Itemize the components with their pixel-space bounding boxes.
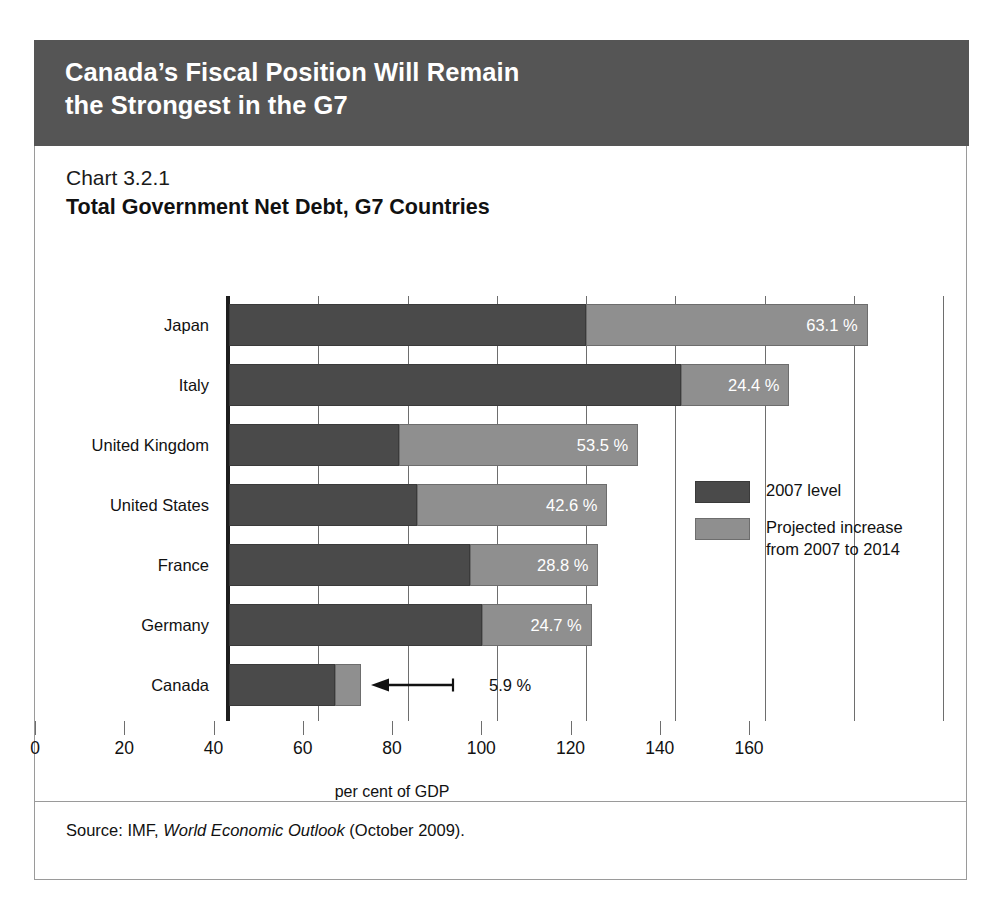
bar-row: Japan63.1 % [229,304,868,346]
bar-segment-2007-level [229,544,470,586]
x-axis-tick [214,721,215,735]
legend-swatch-2007-level [695,481,750,503]
x-axis-tick-label: 140 [645,738,674,759]
banner-title: Canada’s Fiscal Position Will Remain the… [65,56,519,122]
source-prefix: Source: IMF, [66,821,163,839]
bar-segment-projected-increase: 42.6 % [417,484,607,526]
bar-segment-projected-increase: 24.7 % [482,604,592,646]
chart-number: Chart 3.2.1 [66,164,490,191]
source-note: Source: IMF, World Economic Outlook (Oct… [66,821,465,840]
bar-row: United Kingdom53.5 % [229,424,638,466]
x-axis-tick [571,721,572,735]
legend-label-projected-increase: Projected increase from 2007 to 2014 [766,516,903,560]
bar-row: Italy24.4 % [229,364,789,406]
bar-value-label: 28.8 % [537,556,588,575]
x-axis-tick-label: 0 [30,738,40,759]
bar-segment-2007-level [229,484,417,526]
bar-segment-projected-increase [335,664,361,706]
bar-row: United States42.6 % [229,484,607,526]
x-axis-tick [481,721,482,735]
callout-arrow-icon [371,678,463,692]
source-publication: World Economic Outlook [163,821,345,839]
chart-title: Total Government Net Debt, G7 Countries [66,193,490,221]
x-axis-tick-labels: 020406080100120140160 [35,738,749,764]
legend-label-2007-level: 2007 level [766,479,841,501]
x-axis-tick-label: 80 [382,738,401,759]
x-axis-tick [303,721,304,735]
bar-value-label: 42.6 % [546,496,597,515]
category-label: Italy [179,376,209,395]
chart-figure: Canada’s Fiscal Position Will Remain the… [34,40,967,880]
bar-value-label: 63.1 % [806,316,857,335]
category-label: Canada [151,676,209,695]
category-label: United States [110,496,209,515]
legend-item-2007-level: 2007 level [695,479,945,503]
x-axis-tick [35,721,36,735]
category-label: United Kingdom [92,436,209,455]
bar-segment-2007-level [229,364,681,406]
source-divider [35,801,966,802]
x-axis-tick-label: 120 [556,738,585,759]
bar-segment-2007-level [229,424,399,466]
x-axis-tick [749,721,750,735]
category-label: France [158,556,209,575]
bar-segment-2007-level [229,604,482,646]
legend-item-projected-increase: Projected increase from 2007 to 2014 [695,516,945,560]
x-axis-ticks [35,721,749,735]
category-label: Japan [164,316,209,335]
bar-segment-projected-increase: 28.8 % [470,544,599,586]
x-axis-tick [124,721,125,735]
bar-segment-projected-increase: 24.4 % [681,364,790,406]
callout-value-label: 5.9 % [489,676,531,695]
bar-value-label: 24.4 % [728,376,779,395]
bar-segment-2007-level [229,664,335,706]
legend-swatch-projected-increase [695,518,750,540]
chart-header: Chart 3.2.1 Total Government Net Debt, G… [66,164,490,221]
bar-row: France28.8 % [229,544,598,586]
bar-value-label: 24.7 % [530,616,581,635]
value-callout: 5.9 % [371,675,531,695]
bar-row: Germany24.7 % [229,604,592,646]
x-axis-tick-label: 20 [115,738,134,759]
source-suffix: (October 2009). [345,821,465,839]
x-axis-tick-label: 100 [467,738,496,759]
x-axis-tick-label: 40 [204,738,223,759]
x-axis-tick-label: 60 [293,738,312,759]
category-label: Germany [141,616,209,635]
x-axis-label: per cent of GDP [35,783,749,801]
x-axis-tick-label: 160 [734,738,763,759]
bar-value-label: 53.5 % [577,436,628,455]
legend: 2007 level Projected increase from 2007 … [695,479,945,573]
x-axis-tick [660,721,661,735]
banner: Canada’s Fiscal Position Will Remain the… [34,40,969,146]
gridline [675,296,676,721]
x-axis-tick [392,721,393,735]
bar-segment-projected-increase: 63.1 % [586,304,868,346]
bar-row: Canada5.9 % [229,664,361,706]
bar-segment-projected-increase: 53.5 % [399,424,638,466]
bar-segment-2007-level [229,304,586,346]
